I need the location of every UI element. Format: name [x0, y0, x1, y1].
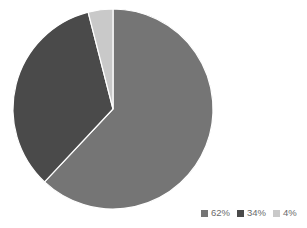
- legend-label: 4%: [283, 208, 297, 218]
- legend-label: 62%: [211, 208, 230, 218]
- legend-label: 34%: [247, 208, 266, 218]
- chart-legend: 62%34%4%: [201, 205, 297, 221]
- pie-chart: 62%34%4%: [0, 0, 307, 228]
- legend-item-2[interactable]: 34%: [237, 208, 266, 218]
- legend-item-3[interactable]: 4%: [273, 208, 297, 218]
- pie-chart-canvas: [0, 0, 307, 228]
- legend-swatch-icon: [201, 210, 208, 217]
- legend-swatch-icon: [273, 210, 280, 217]
- legend-item-1[interactable]: 62%: [201, 208, 230, 218]
- legend-swatch-icon: [237, 210, 244, 217]
